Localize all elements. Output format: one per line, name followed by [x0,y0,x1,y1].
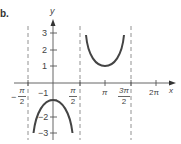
y-tick-2: 2 [42,46,47,55]
y-tick-neg1: −1 [38,89,48,98]
x-tick-pi: π [102,89,107,97]
x-tick-2pi: 2π [149,89,159,97]
x-tick-pi-half: π 2 [69,87,77,106]
curve-upper-branch [86,35,124,66]
secant-graph [0,0,181,144]
x-axis-arrow-icon [169,81,176,86]
x-tick-3pi-half: 3π 2 [118,87,130,106]
y-axis-label: y [50,7,55,16]
neg-sign: − [11,93,16,102]
y-tick-neg3: −3 [38,129,48,138]
y-tick-neg2: −2 [38,113,48,122]
x-tick-neg-pi-half: π 2 [18,87,26,106]
y-tick-3: 3 [42,29,47,38]
x-axis-label: x [169,87,173,95]
y-axis-arrow-icon [51,19,56,26]
y-tick-1: 1 [42,62,47,71]
